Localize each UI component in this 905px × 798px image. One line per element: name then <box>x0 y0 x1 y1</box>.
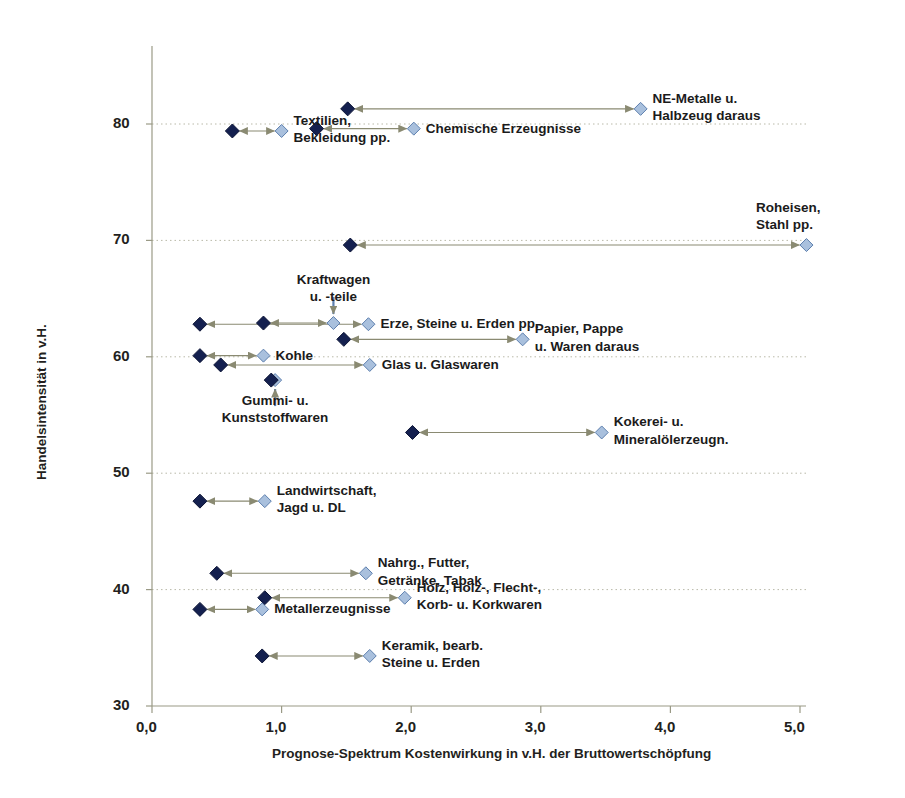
point-label-2: Textilien,Bekleidung pp. <box>294 112 391 147</box>
x-tick-5: 5,0 <box>784 718 805 735</box>
point-label-6: Papier, Pappeu. Waren daraus <box>535 320 640 355</box>
point-label-1: Chemische Erzeugnisse <box>426 120 581 137</box>
point-label-15: Keramik, bearb.Steine u. Erden <box>382 637 483 672</box>
y-axis-title: Handelsintensität in v.H. <box>34 324 49 480</box>
point-label-10: Kokerei- u.Mineralölerzeugn. <box>614 413 729 448</box>
x-axis-title: Prognose-Spektrum Kostenwirkung in v.H. … <box>272 746 711 761</box>
point-label-14: Metallerzeugnisse <box>274 600 390 617</box>
point-label-7: Kohle <box>275 347 313 364</box>
y-tick-4: 70 <box>113 230 130 247</box>
point-label-8: Glas u. Glaswaren <box>382 356 499 373</box>
point-label-9: Gummi- u.Kunststoffwaren <box>213 392 337 427</box>
scatter-chart: 0,01,02,03,04,05,0 304050607080 NE-Metal… <box>0 0 905 798</box>
y-tick-5: 80 <box>113 114 130 131</box>
y-tick-1: 40 <box>113 580 130 597</box>
x-tick-1: 1,0 <box>266 718 287 735</box>
x-tick-0: 0,0 <box>136 718 157 735</box>
y-tick-0: 30 <box>113 696 130 713</box>
x-tick-2: 2,0 <box>395 718 416 735</box>
y-tick-3: 60 <box>113 347 130 364</box>
point-label-13: Holz, Holz-, Flecht-,Korb- u. Korkwaren <box>417 579 542 614</box>
y-tick-2: 50 <box>113 463 130 480</box>
point-label-4: Erze, Steine u. Erden pp. <box>380 315 538 332</box>
point-label-5: Kraftwagenu. -teile <box>271 271 395 306</box>
point-label-0: NE-Metalle u.Halbzeug daraus <box>653 90 761 125</box>
point-label-3: Roheisen,Stahl pp. <box>756 199 821 234</box>
x-tick-4: 4,0 <box>654 718 675 735</box>
x-tick-3: 3,0 <box>525 718 546 735</box>
point-label-11: Landwirtschaft,Jagd u. DL <box>277 482 377 517</box>
